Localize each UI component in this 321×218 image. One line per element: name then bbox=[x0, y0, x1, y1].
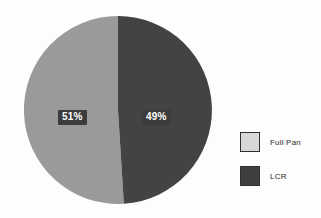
legend-label-full-pan: Full Pan bbox=[270, 138, 301, 147]
chart-legend: Full Pan LCR bbox=[240, 130, 318, 198]
legend-label-lcr: LCR bbox=[270, 172, 287, 181]
pie-chart: 51% 49% bbox=[24, 16, 212, 204]
background-bleed-text-top bbox=[0, 0, 321, 14]
pie-label-lcr: 49% bbox=[142, 110, 171, 125]
background-bleed-text-bottom bbox=[0, 204, 321, 218]
legend-item-full-pan[interactable]: Full Pan bbox=[240, 130, 318, 154]
pie-label-full-pan: 51% bbox=[58, 110, 87, 125]
legend-swatch-lcr-icon bbox=[240, 166, 260, 186]
legend-swatch-full-pan-icon bbox=[240, 132, 260, 152]
chart-page: 51% 49% Full Pan LCR bbox=[0, 0, 321, 218]
legend-item-lcr[interactable]: LCR bbox=[240, 164, 318, 188]
background-bleed-text bbox=[209, 52, 317, 122]
pie-chart-svg bbox=[24, 16, 212, 204]
